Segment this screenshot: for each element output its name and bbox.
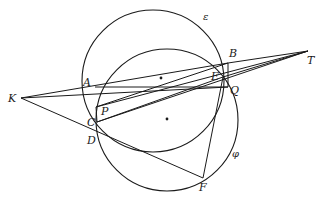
point-label-Q: Q xyxy=(230,84,239,97)
segments-layer xyxy=(21,51,308,178)
point-label-E: E xyxy=(210,70,219,83)
center-epsilon-dot xyxy=(160,77,163,80)
point-label-C: C xyxy=(87,116,96,129)
point-label-P: P xyxy=(100,105,109,118)
circle-epsilon xyxy=(82,10,224,152)
segment-CE xyxy=(97,77,223,122)
segment-KF xyxy=(21,98,203,178)
circle-label-epsilon: ε xyxy=(203,11,208,22)
point-label-B: B xyxy=(228,47,237,60)
point-label-D: D xyxy=(86,134,96,147)
center-phi-dot xyxy=(166,118,169,121)
circle-label-phi: φ xyxy=(232,148,239,159)
point-label-T: T xyxy=(307,54,316,67)
point-label-A: A xyxy=(82,76,91,89)
diagram-canvas: ABTKEQPCDFεφ xyxy=(0,0,317,208)
geometry-figure: ABTKEQPCDFεφ xyxy=(0,0,317,208)
segment-PT xyxy=(96,51,308,107)
labels-layer: ABTKEQPCDFεφ xyxy=(7,11,316,194)
point-label-F: F xyxy=(198,181,207,194)
point-label-K: K xyxy=(7,92,17,105)
